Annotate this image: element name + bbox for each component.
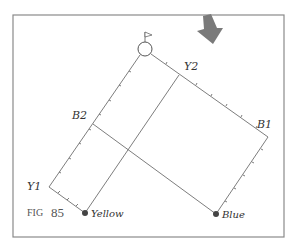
blue-route [151, 54, 268, 214]
label-y2: Y2 [184, 60, 198, 73]
label-blue: Blue [221, 209, 245, 220]
figure-caption-prefix: FIG [27, 207, 43, 218]
label-y1: Y1 [27, 180, 41, 193]
label-b1: B1 [256, 118, 272, 131]
yellow-direct-line [85, 75, 179, 213]
figure-caption-number: 85 [51, 205, 64, 220]
diagram-canvas: Y2 B2 B1 Y1 Yellow Blue FIG 85 [0, 0, 297, 250]
flag-icon [138, 32, 152, 56]
blue-direct-line [93, 124, 216, 214]
yellow-route [49, 55, 140, 213]
down-arrow-icon [197, 14, 223, 44]
label-b2: B2 [71, 109, 87, 122]
label-yellow: Yellow [91, 208, 124, 219]
yellow-ball [82, 210, 88, 216]
blue-ball [213, 211, 219, 217]
